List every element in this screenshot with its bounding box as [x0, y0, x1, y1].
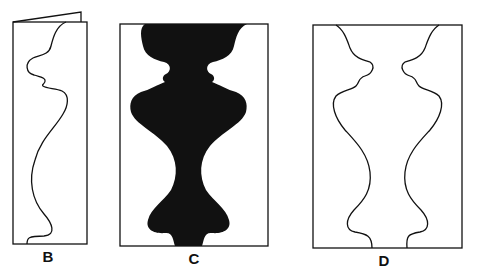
figure-canvas	[0, 0, 478, 271]
panel-d-frame	[313, 25, 462, 248]
panel-c	[120, 24, 268, 246]
panel-c-vase-silhouette	[130, 24, 247, 246]
panel-d-label: D	[379, 252, 390, 269]
panel-b-profile	[27, 22, 67, 244]
panel-d-left-profile	[333, 25, 373, 248]
panel-b-fold-flap	[13, 12, 81, 22]
panel-c-label: C	[189, 250, 200, 267]
panel-b	[13, 12, 87, 244]
panel-b-label: B	[43, 248, 54, 265]
panel-d-right-profile	[402, 25, 442, 248]
panel-d	[313, 25, 462, 248]
